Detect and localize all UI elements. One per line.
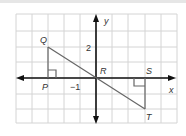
- point-label-s: S: [146, 66, 152, 76]
- point-label-r: R: [100, 66, 107, 76]
- point-label-p: P: [42, 82, 48, 92]
- right-angle-p: [48, 70, 56, 78]
- y-axis-label: y: [103, 16, 109, 26]
- point-label-t: T: [146, 112, 153, 122]
- point-label-q: Q: [40, 35, 47, 45]
- right-angle-s: [134, 78, 145, 86]
- x-tick-label: −1: [70, 82, 80, 92]
- coordinate-diagram: y x 2 −1 Q P R S T: [0, 0, 186, 136]
- x-axis-label: x: [168, 85, 174, 95]
- y-tick-label: 2: [86, 43, 91, 53]
